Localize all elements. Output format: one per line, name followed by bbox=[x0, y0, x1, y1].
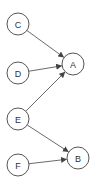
node-f: F bbox=[7, 154, 29, 176]
node-label: E bbox=[15, 115, 21, 125]
node-b: B bbox=[67, 147, 89, 169]
graph-canvas: CADEBF bbox=[0, 0, 94, 188]
node-label: B bbox=[75, 154, 81, 164]
node-e: E bbox=[7, 108, 29, 130]
nodes-layer: CADEBF bbox=[7, 13, 89, 176]
node-label: C bbox=[15, 20, 22, 30]
edges-layer bbox=[26, 30, 69, 163]
node-label: D bbox=[15, 69, 22, 79]
node-label: F bbox=[15, 161, 21, 171]
edge-d-to-a bbox=[29, 66, 62, 71]
node-a: A bbox=[62, 53, 84, 75]
edge-c-to-a bbox=[27, 30, 64, 57]
node-label: A bbox=[70, 60, 76, 70]
edge-e-to-a bbox=[26, 72, 65, 111]
edge-e-to-b bbox=[27, 125, 68, 152]
node-d: D bbox=[7, 62, 29, 84]
edge-f-to-b bbox=[29, 159, 67, 163]
node-c: C bbox=[7, 13, 29, 35]
